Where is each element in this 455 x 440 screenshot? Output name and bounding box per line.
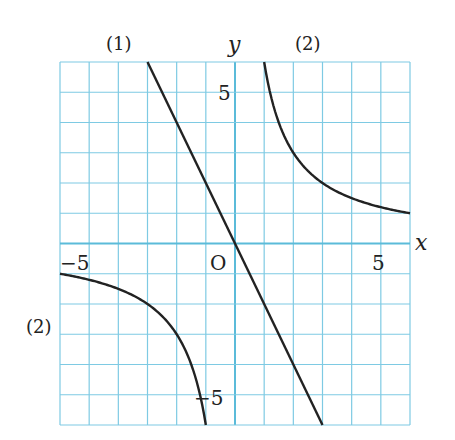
x-axis-label: x: [415, 230, 428, 255]
series-2-branch-lower: [60, 274, 206, 425]
y-tick-neg5: −5: [194, 386, 223, 410]
labels: x y O −5 5 5 −5 (1) (2) (2): [26, 32, 428, 410]
series-2-label-top: (2): [295, 33, 321, 54]
series-2-branch-upper: [264, 62, 410, 213]
series-1-label: (1): [106, 33, 132, 54]
y-tick-5: 5: [218, 81, 231, 105]
origin-label: O: [210, 251, 226, 275]
x-tick-neg5: −5: [60, 251, 89, 275]
coordinate-plot: x y O −5 5 5 −5 (1) (2) (2): [0, 0, 455, 440]
chart-container: x y O −5 5 5 −5 (1) (2) (2): [0, 0, 455, 440]
x-tick-5: 5: [372, 251, 385, 275]
series-2-label-left: (2): [26, 316, 52, 337]
y-axis-label: y: [227, 32, 241, 57]
